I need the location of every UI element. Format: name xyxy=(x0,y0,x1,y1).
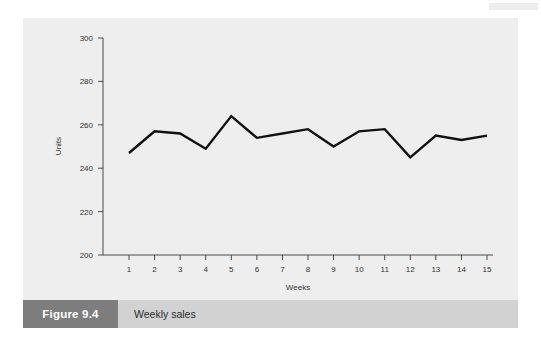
chart-background xyxy=(23,18,518,300)
y-tick-label: 300 xyxy=(80,34,94,43)
y-tick-label: 200 xyxy=(80,251,94,260)
y-tick-label: 260 xyxy=(80,121,94,130)
x-tick-label: 2 xyxy=(152,265,157,274)
plot-area: 200220240260280300 123456789101112131415… xyxy=(23,18,518,300)
x-tick-label: 4 xyxy=(203,265,208,274)
x-tick-label: 6 xyxy=(255,265,260,274)
x-tick-label: 1 xyxy=(127,265,132,274)
top-edge-artifact xyxy=(489,3,538,10)
x-tick-label: 8 xyxy=(306,265,311,274)
x-tick-label: 15 xyxy=(483,265,492,274)
x-tick-label: 14 xyxy=(457,265,466,274)
y-tick-label: 280 xyxy=(80,77,94,86)
x-tick-label: 12 xyxy=(406,265,415,274)
y-tick-label: 240 xyxy=(80,164,94,173)
figure-caption-text: Weekly sales xyxy=(118,300,518,328)
figure-number-tag: Figure 9.4 xyxy=(23,300,118,328)
x-tick-label: 11 xyxy=(381,265,390,274)
x-axis-title: Weeks xyxy=(286,283,310,292)
y-tick-label: 220 xyxy=(80,208,94,217)
figure-caption-bar: Figure 9.4 Weekly sales xyxy=(23,300,518,328)
chart-panel: 200220240260280300 123456789101112131415… xyxy=(23,18,518,300)
x-tick-label: 9 xyxy=(331,265,336,274)
line-chart-svg: 200220240260280300 123456789101112131415… xyxy=(23,18,518,300)
y-axis-title: Units xyxy=(54,137,63,155)
x-tick-label: 3 xyxy=(178,265,183,274)
figure-page: 200220240260280300 123456789101112131415… xyxy=(0,0,541,353)
x-tick-label: 7 xyxy=(280,265,285,274)
x-tick-label: 13 xyxy=(431,265,440,274)
x-tick-label: 5 xyxy=(229,265,234,274)
x-tick-label: 10 xyxy=(355,265,364,274)
